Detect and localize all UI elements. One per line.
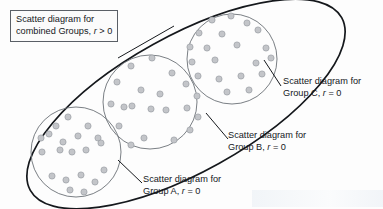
group-b-label-suffix: = 0 xyxy=(270,142,286,152)
group-a-label-prefix: Group A, xyxy=(143,186,182,196)
combined-groups-callout: Scatter diagram for combined Groups, r >… xyxy=(10,10,118,42)
group-c-label: Scatter diagram for Group C, r = 0 xyxy=(283,76,361,99)
group-c-label-suffix: = 0 xyxy=(326,88,342,98)
group-a-label-line1: Scatter diagram for xyxy=(143,174,221,186)
group-c-label-prefix: Group C, xyxy=(283,88,323,98)
group-a-label-suffix: = 0 xyxy=(185,186,201,196)
combined-groups-callout-line1: Scatter diagram for xyxy=(16,14,112,26)
leader-line-group-a xyxy=(118,160,142,183)
group-b-points xyxy=(108,55,201,148)
group-c-label-line1: Scatter diagram for xyxy=(283,76,361,88)
leader-line-combined xyxy=(118,26,174,58)
group-c-points xyxy=(187,13,274,95)
group-a-label-line2: Group A, r = 0 xyxy=(143,186,221,198)
group-b-label-line2: Group B, r = 0 xyxy=(228,142,306,154)
leader-line-group-b xyxy=(206,113,228,139)
group-a-points xyxy=(38,114,107,195)
group-b-label: Scatter diagram for Group B, r = 0 xyxy=(228,130,306,153)
leader-line-group-c xyxy=(264,60,281,86)
group-c-circle xyxy=(187,14,277,104)
group-c-label-line2: Group C, r = 0 xyxy=(283,88,361,100)
combined-groups-callout-line2: combined Groups, r > 0 xyxy=(16,26,112,38)
combined-groups-callout-prefix: combined Groups, xyxy=(16,26,94,36)
group-b-circle xyxy=(103,55,197,149)
leader-lines xyxy=(118,26,281,183)
combined-groups-callout-suffix: > 0 xyxy=(97,26,113,36)
group-a-label: Scatter diagram for Group A, r = 0 xyxy=(143,174,221,197)
group-b-label-prefix: Group B, xyxy=(228,142,267,152)
scatter-diagram-figure: Scatter diagram for combined Groups, r >… xyxy=(0,0,383,209)
group-b-label-line1: Scatter diagram for xyxy=(228,130,306,142)
